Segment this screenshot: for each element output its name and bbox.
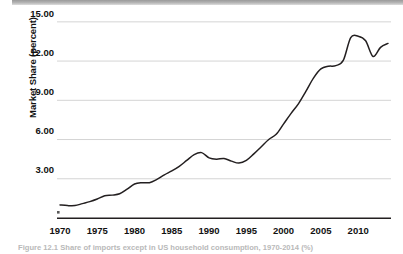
x-tick-label-1985: 1985 (161, 225, 182, 236)
x-tick-label-1975: 1975 (87, 225, 108, 236)
y-tick-label-6: 6.00 (10, 126, 54, 136)
y-tick-label-15: 15.00 (10, 9, 54, 19)
plot-area (57, 14, 391, 219)
y-tick-label-12: 12.00 (10, 48, 54, 58)
y-tick-label-3: 3.00 (10, 165, 54, 175)
x-tick-label-2010: 2010 (348, 225, 369, 236)
line-chart-svg (57, 14, 391, 219)
x-tick-label-1980: 1980 (124, 225, 145, 236)
x-tick-label-1995: 1995 (236, 225, 257, 236)
gridlines (57, 22, 391, 179)
x-tick-label-1970: 1970 (49, 225, 70, 236)
figure-page: Market Share (percent) 15.00 12.00 9.00 … (0, 0, 403, 254)
y-axis-tick-labels: 15.00 12.00 9.00 6.00 3.00 (6, 14, 54, 219)
x-tick-label-2000: 2000 (273, 225, 294, 236)
x-tick-label-1990: 1990 (199, 225, 220, 236)
x-axis-tick-labels: 197019751980198519901995200020052010 (57, 225, 391, 241)
chart-figure: Market Share (percent) 15.00 12.00 9.00 … (0, 5, 403, 254)
x-tick-label-2005: 2005 (310, 225, 331, 236)
origin-tick-mark (57, 211, 60, 214)
figure-caption: Figure 12.1 Share of imports except in U… (18, 243, 398, 252)
y-tick-label-9: 9.00 (10, 87, 54, 97)
